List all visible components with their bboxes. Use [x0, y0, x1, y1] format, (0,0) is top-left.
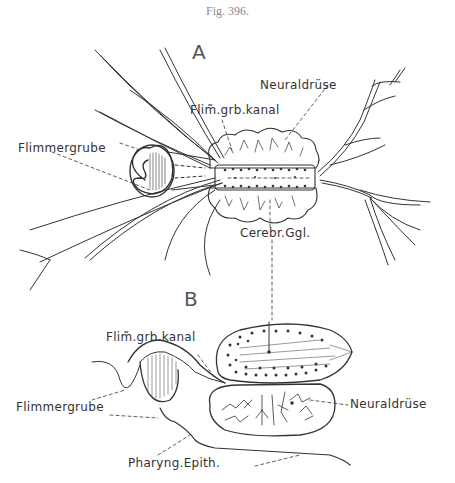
- panel-label-a: A: [192, 40, 206, 64]
- label-b-neuraldruse: Neuraldrüse: [350, 397, 427, 411]
- panel-a-drawing: [20, 48, 430, 320]
- label-a-neuraldruse: Neuraldrüse: [260, 78, 337, 92]
- label-b-flim-grb-kanal: Flim̃.grb.kanal: [106, 330, 196, 344]
- panel-label-b: B: [184, 287, 198, 311]
- label-a-flim-grb-kanal: Flim̃.grb.kanal: [190, 103, 280, 117]
- label-a-flimmergrube: Flimmergrube: [18, 141, 106, 155]
- label-b-pharyng-epith: Pharyng.Epith.: [128, 456, 220, 470]
- label-b-flimmergrube: Flimmergrube: [16, 400, 104, 414]
- label-a-cerebr-ggl: Cerebr.Ggl.: [240, 226, 310, 240]
